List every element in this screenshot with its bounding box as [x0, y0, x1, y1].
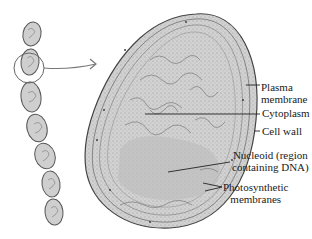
zoom-arrow [44, 59, 96, 69]
nucleoid-line1: Nucleoid (region [232, 150, 309, 161]
chain-cell [21, 20, 44, 47]
label-cytoplasm: Cytoplasm [262, 108, 310, 119]
label-plasma-membrane: Plasma membrane [261, 82, 307, 105]
label-photosynthetic-membranes: Photosynthetic membranes [223, 182, 288, 205]
chain-cell [40, 170, 61, 198]
chain-cell [19, 81, 42, 113]
chain-cell [20, 48, 41, 76]
photosynthetic-line2: membranes [223, 194, 288, 205]
plasma-membrane-line2: membrane [261, 94, 307, 105]
chain-cell [44, 198, 65, 226]
chain-cell [31, 141, 58, 172]
label-cell-wall: Cell wall [262, 126, 302, 137]
photosynthetic-line1: Photosynthetic [223, 182, 288, 193]
nucleoid-line2: containing DNA) [232, 162, 309, 173]
chain-cell [24, 112, 50, 144]
label-nucleoid: Nucleoid (region containing DNA) [232, 150, 309, 173]
plasma-membrane-line1: Plasma [261, 82, 307, 93]
cell-chain [19, 20, 64, 225]
